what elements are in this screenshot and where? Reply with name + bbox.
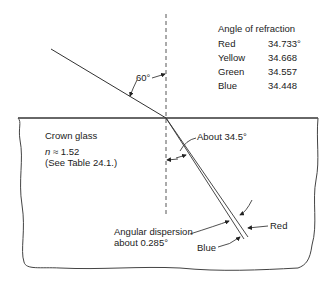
refraction-table: Angle of refraction Red34.733° Yellow34.… xyxy=(218,22,301,93)
table-row: Green34.557 xyxy=(218,65,301,79)
red-label: Red xyxy=(270,220,287,232)
table-row: Yellow34.668 xyxy=(218,51,301,65)
table-title: Angle of refraction xyxy=(218,22,301,36)
incident-angle-label: 60° xyxy=(136,72,150,84)
blue-label: Blue xyxy=(197,242,216,254)
dispersion-label-2: about 0.285° xyxy=(114,237,168,249)
table-ref-label: (See Table 24.1.) xyxy=(45,157,117,169)
table-row: Red34.733° xyxy=(218,37,301,51)
refracted-angle-label: About 34.5° xyxy=(197,131,247,143)
medium-label: Crown glass xyxy=(45,130,97,142)
table-row: Blue34.448 xyxy=(218,79,301,93)
